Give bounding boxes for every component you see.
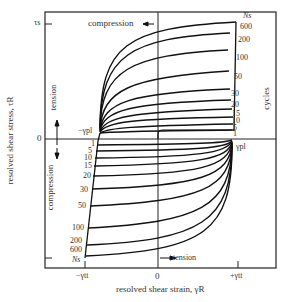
cyclic-hardening-figure: τs 0 compression tension compression res… [0,0,287,302]
tension-left-label: tension [49,85,58,111]
cycle-label-30-right: 30 [231,90,239,98]
pos-gamma-tt-label: +γtt [230,272,243,280]
cycle-label-50-right: 50 [234,73,242,81]
y-zero-label: 0 [37,134,42,143]
cycle-label-20-left: 20 [83,172,91,180]
tension-bottom-label: tension [173,254,196,262]
x-axis-label: resolved shear strain, γR [116,285,204,294]
cycle-label-50-left: 50 [78,202,86,210]
upper-branches [100,22,236,133]
neg-gamma-tt-label: −γtt [76,272,89,280]
cycle-label-100-right: 100 [236,54,248,62]
cycle-label-15-left: 15 [84,162,92,170]
pos-gamma-pl-label: γpl [236,143,246,151]
lower-branches [86,140,232,256]
compression-left-label: compression [46,165,55,211]
cycle-label-200-left: 200 [70,237,82,245]
ns-top-label: Ns [243,12,251,20]
cycle-label-20-right: 20 [231,101,239,109]
tau-s-label: τs [34,19,40,27]
cycle-label-200-right: 200 [238,36,250,44]
cycles-label: cycles [262,87,271,110]
cycle-label-600-left: 600 [70,246,82,254]
cycle-label-1-right: 1 [233,130,237,138]
hysteresis-plot [0,0,287,302]
neg-gamma-pl-label: −γpl [78,127,92,135]
x-zero-label: 0 [155,272,160,281]
cycle-label-600-right: 600 [240,23,252,31]
cycle-label-30-left: 30 [80,186,88,194]
compression-top-label: compression [88,19,134,28]
cycle-label-100-left: 100 [72,224,84,232]
ns-bottom-label: Ns [72,256,80,264]
y-axis-label: resolved shear stress, τR [6,96,15,184]
